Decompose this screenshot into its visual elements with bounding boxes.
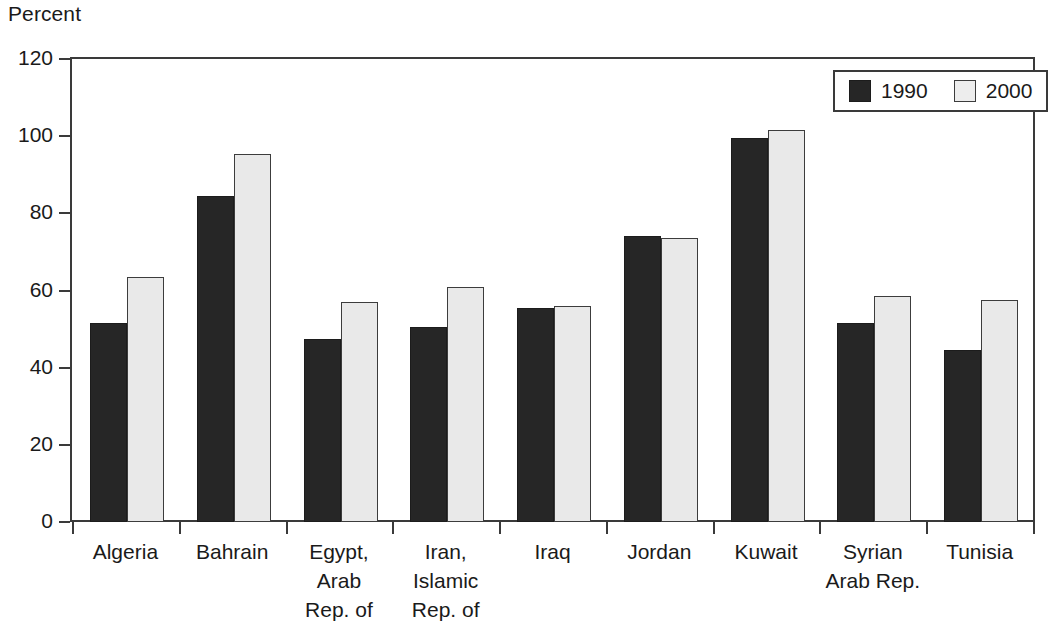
bar-group <box>72 59 179 522</box>
x-axis-tick <box>392 522 394 534</box>
y-tick-label: 100 <box>18 121 53 149</box>
x-axis-label-iran: Iran, Islamic Rep. of <box>386 537 505 624</box>
bar-2000-jordan <box>661 238 698 522</box>
y-tick-label: 40 <box>30 353 53 381</box>
bar-1990-tunisia <box>944 350 981 522</box>
bar-1990-iran-islamic-rep-of <box>410 327 447 522</box>
bar-2000-algeria <box>127 277 164 522</box>
x-axis-tick <box>499 522 501 534</box>
y-tick-mark <box>59 212 70 214</box>
bar-group <box>286 59 393 522</box>
x-axis-tick <box>819 522 821 534</box>
x-axis-tick <box>606 522 608 534</box>
x-axis-label-tunisia: Tunisia <box>920 537 1039 566</box>
x-axis-label-bahrain: Bahrain <box>173 537 292 566</box>
bar-1990-kuwait <box>731 138 768 522</box>
legend-item-2000: 2000 <box>954 80 1033 102</box>
y-tick-mark <box>59 367 70 369</box>
bar-group <box>926 59 1033 522</box>
bar-1990-algeria <box>90 323 127 522</box>
bar-group <box>819 59 926 522</box>
bar-2000-syrian-arab-rep- <box>874 296 911 522</box>
bar-1990-bahrain <box>197 196 234 522</box>
y-tick-label: 20 <box>30 430 53 458</box>
x-axis-tick <box>713 522 715 534</box>
legend-swatch-icon-1990 <box>849 80 871 102</box>
y-tick-mark <box>59 58 70 60</box>
bar-chart: Percent 020406080100120 AlgeriaBahrainEg… <box>0 0 1060 638</box>
y-tick-label: 120 <box>18 44 53 72</box>
bar-group <box>606 59 713 522</box>
y-tick-label: 80 <box>30 198 53 226</box>
x-axis-label-kuwait: Kuwait <box>707 537 826 566</box>
chart-legend: 1990 2000 <box>833 70 1048 112</box>
bar-2000-iran-islamic-rep-of <box>447 287 484 522</box>
y-tick-label: 60 <box>30 276 53 304</box>
bar-group <box>392 59 499 522</box>
legend-label-1990: 1990 <box>881 80 928 102</box>
bar-2000-iraq <box>554 306 591 522</box>
legend-swatch-icon-2000 <box>954 80 976 102</box>
bar-group <box>179 59 286 522</box>
bar-2000-egypt-arab-rep-of <box>341 302 378 522</box>
bar-2000-kuwait <box>768 130 805 522</box>
x-axis-label-iraq: Iraq <box>493 537 612 566</box>
bar-1990-egypt-arab-rep-of <box>304 339 341 522</box>
y-tick-mark <box>59 290 70 292</box>
bar-1990-jordan <box>624 236 661 522</box>
x-axis-label-egypt: Egypt, Arab Rep. of <box>280 537 399 624</box>
x-axis-tick <box>1033 522 1035 534</box>
bar-group <box>713 59 820 522</box>
x-axis-tick <box>926 522 928 534</box>
y-tick-mark <box>59 135 70 137</box>
x-axis-label-syrian: Syrian Arab Rep. <box>813 537 932 595</box>
x-axis-tick <box>286 522 288 534</box>
bar-2000-tunisia <box>981 300 1018 522</box>
bar-group <box>499 59 606 522</box>
x-axis-label-jordan: Jordan <box>600 537 719 566</box>
x-axis-tick <box>179 522 181 534</box>
bar-2000-bahrain <box>234 154 271 522</box>
y-tick-label: 0 <box>41 507 53 535</box>
x-axis-label-algeria: Algeria <box>66 537 185 566</box>
y-tick-mark <box>59 444 70 446</box>
y-axis-caption: Percent <box>8 2 81 26</box>
bar-1990-syrian-arab-rep- <box>837 323 874 522</box>
plot-area <box>72 59 1033 522</box>
legend-label-2000: 2000 <box>986 80 1033 102</box>
bar-1990-iraq <box>517 308 554 522</box>
y-tick-mark <box>59 521 70 523</box>
x-axis-tick <box>72 522 74 534</box>
legend-item-1990: 1990 <box>849 80 928 102</box>
